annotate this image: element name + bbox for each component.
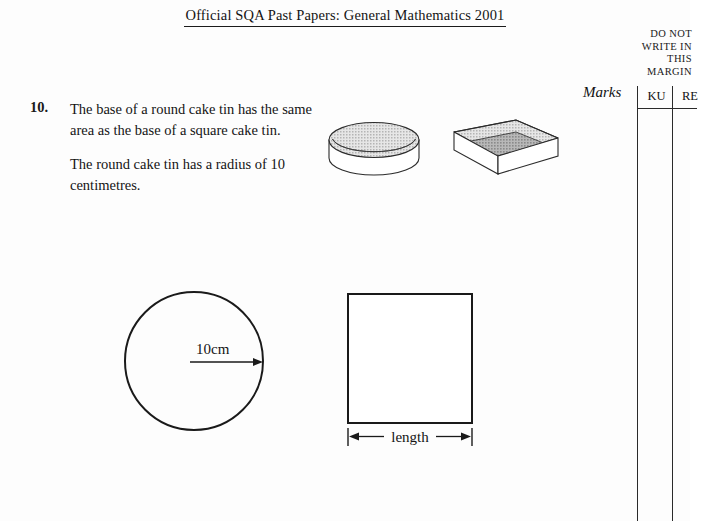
marks-column-header-re: RE [676,89,702,104]
margin-notice-line-3: THIS [600,53,692,66]
marks-label: Marks [583,84,621,101]
question-block: 10. The base of a round cake tin has the… [30,99,330,195]
circle-outline [125,292,263,430]
round-cake-tin-illustration [322,110,426,190]
marks-column-header-ku: KU [641,89,672,104]
margin-notice-line-4: MARGIN [600,66,692,79]
square-cake-tin-illustration [446,112,564,188]
question-paragraph-2: The round cake tin has a radius of 10 ce… [70,154,330,195]
question-number: 10. [30,99,48,116]
square-outline [348,294,472,423]
question-paragraph-1: The base of a round cake tin has the sam… [70,99,330,140]
round-tin-rim [329,123,419,158]
marks-table: KU RE [637,86,697,521]
dimension-label: length [391,429,429,445]
margin-notice-line-1: DO NOT [600,28,692,41]
square-diagram: length [338,288,488,453]
page-header: Official SQA Past Papers: General Mathem… [0,6,690,27]
dimension-arrow-left [349,433,359,441]
page-title: Official SQA Past Papers: General Mathem… [184,7,507,27]
circle-diagram: 10cm [118,286,283,436]
margin-notice: DO NOT WRITE IN THIS MARGIN [600,28,692,78]
marks-table-header-rule [637,108,697,109]
radius-label: 10cm [196,341,230,357]
radius-arrow-head [253,358,263,366]
margin-notice-line-2: WRITE IN [600,41,692,54]
marks-table-column-divider [672,86,673,521]
marks-table-left-rule [637,86,638,521]
dimension-arrow-right [461,433,471,441]
